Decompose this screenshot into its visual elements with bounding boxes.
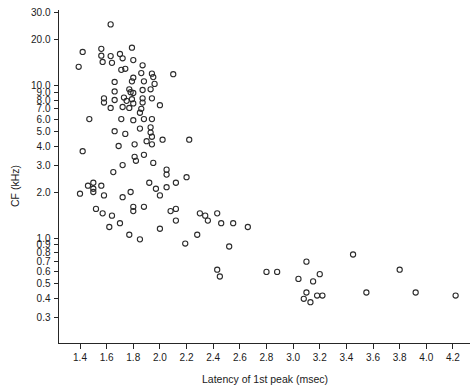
- data-point-marker: [149, 142, 154, 147]
- x-tick-label: 4.0: [419, 352, 433, 363]
- data-point-marker: [304, 290, 309, 295]
- data-point-marker: [157, 226, 162, 231]
- data-point-marker: [128, 189, 133, 194]
- data-point-marker: [453, 293, 458, 298]
- x-tick-label: 1.4: [73, 352, 87, 363]
- data-point-marker: [219, 221, 224, 226]
- x-tick-label: 3.8: [393, 352, 407, 363]
- data-point-marker: [108, 105, 113, 110]
- scatter-plot-figure: 30.020.010.09.08.07.06.05.04.03.02.01.00…: [0, 0, 476, 391]
- y-tick-label: 4.0: [37, 141, 51, 152]
- x-tick-label: 2.0: [153, 352, 167, 363]
- data-point-marker: [153, 186, 158, 191]
- data-point-marker: [173, 206, 178, 211]
- data-point-marker: [76, 64, 81, 69]
- y-axis-title: CF (kHz): [9, 165, 21, 207]
- data-point-marker: [140, 63, 145, 68]
- data-point-marker: [112, 79, 117, 84]
- plot-canvas: 30.020.010.09.08.07.06.05.04.03.02.01.00…: [0, 0, 476, 391]
- data-point-marker: [148, 125, 153, 130]
- data-point-marker: [100, 211, 105, 216]
- data-point-marker: [171, 72, 176, 77]
- data-point-marker: [173, 180, 178, 185]
- data-point-marker: [120, 195, 125, 200]
- data-point-marker: [148, 87, 153, 92]
- data-point-marker: [149, 117, 154, 122]
- data-point-marker: [151, 160, 156, 165]
- data-point-marker: [100, 59, 105, 64]
- data-point-marker: [107, 224, 112, 229]
- data-point-marker: [120, 56, 125, 61]
- data-point-marker: [112, 129, 117, 134]
- data-point-marker: [123, 131, 128, 136]
- y-tick-label: 0.5: [37, 278, 51, 289]
- data-point-marker: [157, 103, 162, 108]
- data-point-marker: [308, 300, 313, 305]
- data-point-marker: [184, 175, 189, 180]
- data-point-marker: [131, 118, 136, 123]
- data-point-marker: [311, 279, 316, 284]
- data-point-marker: [152, 81, 157, 86]
- y-tick-label: 3.0: [37, 160, 51, 171]
- data-point-marker: [203, 213, 208, 218]
- data-point-marker: [227, 244, 232, 249]
- data-point-marker: [144, 139, 149, 144]
- data-point-marker: [120, 104, 125, 109]
- y-tick-label: 30.0: [31, 7, 51, 18]
- data-point-marker: [164, 185, 169, 190]
- data-point-marker: [112, 89, 117, 94]
- data-point-marker: [119, 117, 124, 122]
- data-point-marker: [320, 293, 325, 298]
- data-point-marker: [149, 96, 154, 101]
- data-point-marker: [317, 272, 322, 277]
- data-point-marker: [85, 183, 90, 188]
- x-tick-label: 1.6: [100, 352, 114, 363]
- x-tick-label: 3.2: [313, 352, 327, 363]
- x-tick-label: 2.8: [260, 352, 274, 363]
- data-point-marker: [140, 87, 145, 92]
- data-point-marker: [112, 97, 117, 102]
- data-point-marker: [101, 193, 106, 198]
- data-point-marker: [245, 224, 250, 229]
- data-point-marker: [350, 252, 355, 257]
- data-point-marker: [147, 180, 152, 185]
- data-point-marker: [111, 169, 116, 174]
- data-point-marker: [296, 276, 301, 281]
- data-point-marker: [397, 267, 402, 272]
- data-point-marker: [77, 191, 82, 196]
- data-point-marker: [108, 54, 113, 59]
- data-point-marker: [80, 49, 85, 54]
- data-point-marker: [183, 241, 188, 246]
- data-point-marker: [231, 221, 236, 226]
- data-point-marker: [187, 137, 192, 142]
- data-point-marker: [99, 46, 104, 51]
- x-tick-label: 2.4: [206, 352, 220, 363]
- y-tick-label: 20.0: [31, 34, 51, 45]
- data-point-marker: [413, 290, 418, 295]
- data-point-marker: [109, 60, 114, 65]
- data-point-marker: [99, 183, 104, 188]
- data-point-marker: [127, 105, 132, 110]
- data-point-marker: [217, 274, 222, 279]
- data-point-marker: [304, 259, 309, 264]
- data-point-marker: [215, 211, 220, 216]
- y-tick-label: 2.0: [37, 187, 51, 198]
- data-point-marker: [141, 117, 146, 122]
- data-point-marker: [117, 221, 122, 226]
- data-point-marker: [301, 296, 306, 301]
- data-point-marker: [364, 290, 369, 295]
- data-point-marker: [139, 71, 144, 76]
- data-point-marker: [173, 218, 178, 223]
- x-tick-label: 1.8: [126, 352, 140, 363]
- x-tick-label: 3.4: [339, 352, 353, 363]
- data-point-marker: [116, 143, 121, 148]
- data-point-marker: [132, 142, 137, 147]
- data-point-marker: [137, 237, 142, 242]
- data-point-marker: [120, 163, 125, 168]
- x-tick-label: 3.0: [286, 352, 300, 363]
- data-point-marker: [157, 193, 162, 198]
- data-point-marker: [108, 22, 113, 27]
- data-point-marker: [131, 57, 136, 62]
- x-tick-label: 4.2: [446, 352, 460, 363]
- data-point-marker: [127, 232, 132, 237]
